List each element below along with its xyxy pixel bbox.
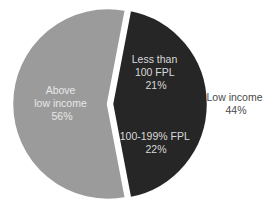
label-line: Low income bbox=[207, 91, 263, 103]
label-line: low income bbox=[34, 97, 87, 109]
pie-chart: Above low income 56% Less than 100 FPL 2… bbox=[0, 0, 275, 208]
label-line: Less than bbox=[132, 53, 178, 65]
slice-label-low-income: Low income 44% bbox=[207, 91, 266, 116]
label-line: 44% bbox=[225, 104, 246, 116]
label-line: 100 FPL bbox=[135, 66, 175, 78]
label-line: 21% bbox=[145, 79, 166, 91]
label-line: 56% bbox=[51, 110, 72, 122]
label-line: 22% bbox=[145, 143, 166, 155]
pie-slice-low-income bbox=[112, 10, 208, 199]
label-line: Above bbox=[46, 84, 76, 96]
label-line: 100-199% FPL bbox=[120, 130, 190, 142]
